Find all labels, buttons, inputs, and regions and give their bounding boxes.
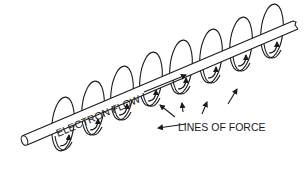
leader-arrow-icon xyxy=(182,103,183,112)
lines-of-force-label: LINES OF FORCE xyxy=(178,121,266,133)
leader-arrow-icon xyxy=(228,89,237,104)
electron-flow-diagram: ELECTRON FLOW LINES OF FORCE xyxy=(0,0,306,170)
ring-arrow-icon xyxy=(238,55,246,66)
leader-arrow-icon xyxy=(160,105,175,117)
leader-arrow-icon xyxy=(202,102,207,114)
ring-arrow-icon xyxy=(208,67,216,78)
ring-arrow-icon xyxy=(269,42,277,53)
